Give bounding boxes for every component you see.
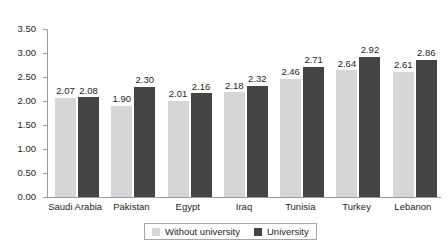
x-axis-category-label: Egypt xyxy=(160,201,216,212)
bar: 2.46 xyxy=(280,79,301,197)
bar: 2.30 xyxy=(134,87,155,197)
bar: 2.64 xyxy=(336,70,357,197)
legend-label: University xyxy=(267,227,309,237)
bar-value-label: 2.16 xyxy=(192,82,211,92)
bar-value-label: 2.30 xyxy=(136,75,155,85)
bar: 2.92 xyxy=(359,57,380,197)
bar-chart: 0.000.501.001.502.002.503.003.50 Saudi A… xyxy=(0,0,448,252)
legend-swatch-icon xyxy=(254,228,262,236)
bar: 2.08 xyxy=(78,97,99,197)
bar: 2.86 xyxy=(416,60,437,197)
bar-value-label: 2.01 xyxy=(169,89,188,99)
x-axis-category-label: Iraq xyxy=(216,201,272,212)
bar-group: 2.642.92 xyxy=(328,29,384,197)
bar-group: 1.902.30 xyxy=(103,29,159,197)
bar-value-label: 2.61 xyxy=(394,60,413,70)
bar-value-label: 2.08 xyxy=(79,86,98,96)
bar-group: 2.182.32 xyxy=(216,29,272,197)
bar: 2.32 xyxy=(247,86,268,197)
y-axis-tick-label: 3.00 xyxy=(2,48,36,58)
bar: 2.18 xyxy=(224,92,245,197)
bar-group: 2.072.08 xyxy=(47,29,103,197)
chart-legend: Without universityUniversity xyxy=(144,223,317,240)
legend-swatch-icon xyxy=(152,228,160,236)
legend-label: Without university xyxy=(165,227,240,237)
x-axis-category-label: Lebanon xyxy=(385,201,441,212)
x-axis-category-label: Saudi Arabia xyxy=(47,201,103,212)
bar: 2.16 xyxy=(191,93,212,197)
y-axis-tick-label: 1.50 xyxy=(2,120,36,130)
bar-group: 2.612.86 xyxy=(385,29,441,197)
x-axis-category-label: Pakistan xyxy=(103,201,159,212)
bar-value-label: 2.07 xyxy=(56,86,75,96)
bar-value-label: 1.90 xyxy=(113,94,132,104)
y-axis-tick-label: 3.50 xyxy=(2,24,36,34)
y-axis-tick xyxy=(43,197,47,198)
bar-value-label: 2.46 xyxy=(281,67,300,77)
y-axis-tick-label: 1.00 xyxy=(2,144,36,154)
bar-value-label: 2.32 xyxy=(248,74,267,84)
legend-item[interactable]: University xyxy=(254,227,309,237)
y-axis-tick-label: 0.00 xyxy=(2,192,36,202)
bar: 1.90 xyxy=(111,106,132,197)
bar: 2.07 xyxy=(55,98,76,197)
bar-group: 2.012.16 xyxy=(160,29,216,197)
bar-value-label: 2.71 xyxy=(304,55,323,65)
x-axis-line xyxy=(47,197,441,198)
x-axis-category-label: Turkey xyxy=(328,201,384,212)
x-axis-category-label: Tunisia xyxy=(272,201,328,212)
y-axis-tick-label: 2.00 xyxy=(2,96,36,106)
bar: 2.01 xyxy=(168,101,189,197)
bar: 2.61 xyxy=(393,72,414,197)
y-axis-tick-label: 2.50 xyxy=(2,72,36,82)
y-axis-tick-label: 0.50 xyxy=(2,168,36,178)
bar: 2.71 xyxy=(303,67,324,197)
bar-value-label: 2.64 xyxy=(338,59,357,69)
bar-value-label: 2.92 xyxy=(361,45,380,55)
bar-group: 2.462.71 xyxy=(272,29,328,197)
bar-value-label: 2.18 xyxy=(225,81,244,91)
legend-item[interactable]: Without university xyxy=(152,227,240,237)
bar-value-label: 2.86 xyxy=(417,48,436,58)
